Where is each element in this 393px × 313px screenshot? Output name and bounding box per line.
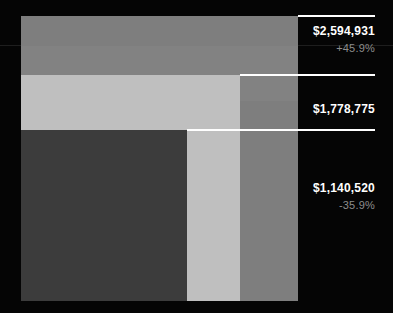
bar-small[interactable] [21, 130, 187, 301]
leader-line-small [187, 129, 375, 131]
callout-mid: $1,778,775 [313, 102, 375, 119]
callout-small-value: $1,140,520 [313, 181, 375, 195]
callout-total-value: $2,594,931 [313, 24, 375, 38]
leader-line-total [298, 15, 375, 17]
callout-total-delta: +45.9% [313, 41, 375, 55]
callout-small: $1,140,520 -35.9% [313, 181, 375, 212]
leader-line-mid [240, 74, 375, 76]
callout-total: $2,594,931 +45.9% [313, 24, 375, 55]
callout-small-delta: -35.9% [313, 198, 375, 212]
callout-mid-value: $1,778,775 [313, 102, 375, 116]
chart-canvas: $2,594,931 +45.9% $1,778,775 $1,140,520 … [0, 0, 393, 313]
